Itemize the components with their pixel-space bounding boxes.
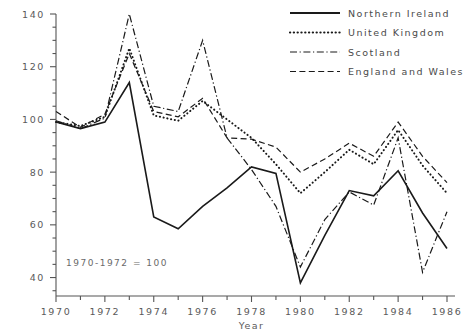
x-tick-label: 1986 [432, 306, 463, 317]
series-line-northern-ireland [56, 83, 447, 283]
line-chart: 4060801001201401970197219741976197819801… [0, 0, 465, 336]
y-tick-label: 80 [30, 167, 45, 178]
y-tick-label: 40 [30, 272, 45, 283]
x-tick-label: 1978 [236, 306, 267, 317]
x-tick-label: 1974 [138, 306, 169, 317]
legend-label-united-kingdom: United Kingdom [348, 27, 445, 38]
x-tick-label: 1980 [285, 306, 316, 317]
x-tick-label: 1970 [41, 306, 72, 317]
x-tick-label: 1982 [334, 306, 365, 317]
legend-label-england-and-wales: England and Wales [348, 66, 464, 77]
x-tick-label: 1972 [90, 306, 121, 317]
legend-label-northern-ireland: Northern Ireland [348, 8, 450, 19]
x-axis-title: Year [238, 320, 265, 331]
y-tick-label: 120 [22, 61, 45, 72]
y-tick-label: 100 [22, 114, 45, 125]
chart-canvas: 4060801001201401970197219741976197819801… [0, 0, 465, 336]
y-tick-label: 60 [30, 219, 45, 230]
x-tick-label: 1976 [187, 306, 218, 317]
baseline-annotation: 1970-1972 = 100 [66, 258, 168, 268]
legend-label-scotland: Scotland [348, 47, 401, 58]
y-tick-label: 140 [22, 9, 45, 20]
x-tick-label: 1984 [383, 306, 414, 317]
